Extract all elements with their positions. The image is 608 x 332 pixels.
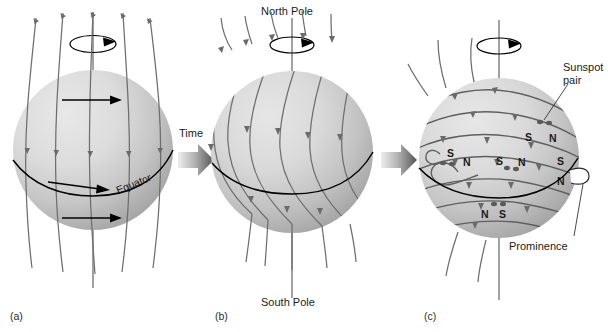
prominence-loop xyxy=(570,168,589,184)
time-label: Time xyxy=(179,127,203,139)
polarity-mid-left-s: S xyxy=(447,147,454,159)
prominence-label: Prominence xyxy=(509,240,568,252)
panel-label-c: (c) xyxy=(424,310,436,322)
polarity-mid-left-n: N xyxy=(463,156,471,168)
polarity-mid-center-n: N xyxy=(518,156,526,168)
sun-sphere-a xyxy=(13,70,173,230)
polarity-mid-center-s: S xyxy=(496,155,503,167)
sun-sphere-b xyxy=(211,71,373,233)
solar-magnetic-field-diagram: Equator (a) Time North Pole xyxy=(0,0,608,332)
polarity-north-high-s: S xyxy=(525,131,532,143)
sunspot-label-line2: pair xyxy=(563,74,582,86)
sunspot-label-line1: Sunspot xyxy=(563,61,603,73)
polarity-north-high-n: N xyxy=(549,132,557,144)
north-pole-label: North Pole xyxy=(261,5,313,17)
south-pole-label: South Pole xyxy=(261,296,315,308)
panel-label-a: (a) xyxy=(10,310,23,322)
polarity-south-s: S xyxy=(499,208,506,220)
panel-label-b: (b) xyxy=(215,310,228,322)
polarity-south-n: N xyxy=(481,208,489,220)
polarity-mid-right-s: S xyxy=(557,155,564,167)
